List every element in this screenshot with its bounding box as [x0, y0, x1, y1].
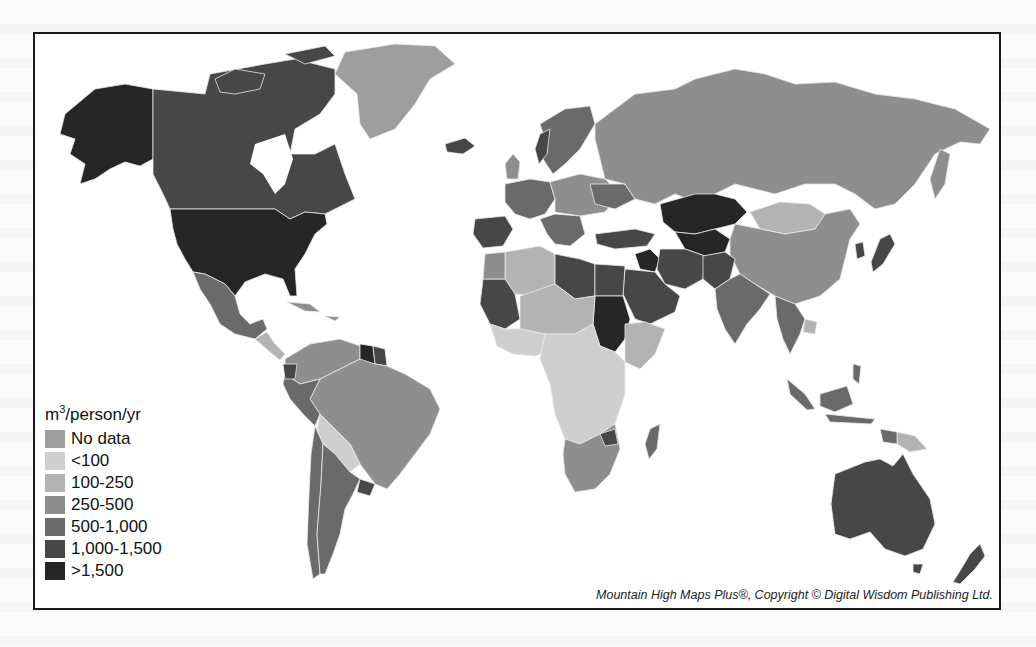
legend-item-100-250: 100-250	[45, 472, 235, 494]
legend-label: <100	[71, 451, 109, 471]
legend-label: 1,000-1,500	[71, 539, 162, 559]
region-japan	[871, 234, 895, 272]
region-iceland	[445, 138, 475, 154]
region-west-papua	[880, 429, 897, 444]
region-tasmania	[913, 564, 923, 574]
region-new-zealand	[953, 544, 985, 584]
map-legend: m3/person/yr No data <100 100-250 250-50…	[45, 398, 235, 582]
region-alaska	[60, 84, 153, 184]
region-southeast-asia	[775, 296, 805, 354]
region-australia	[831, 454, 935, 556]
legend-item-lt-100: <100	[45, 450, 235, 472]
region-papua-new-guinea	[897, 432, 927, 452]
region-western-europe	[505, 179, 555, 219]
region-thailand	[803, 319, 817, 334]
region-caribbean	[287, 302, 340, 321]
region-uk	[505, 154, 520, 179]
legend-label: No data	[71, 429, 131, 449]
legend-label: 250-500	[71, 495, 133, 515]
region-morocco	[483, 252, 505, 279]
region-philippines	[853, 364, 861, 384]
region-egypt	[595, 264, 625, 296]
legend-swatch	[45, 562, 65, 580]
legend-label: >1,500	[71, 561, 123, 581]
legend-title: m3/person/yr	[45, 398, 235, 426]
region-indonesia	[787, 379, 875, 424]
legend-item-500-1000: 500-1,000	[45, 516, 235, 538]
region-italy-balkans	[540, 214, 585, 246]
legend-item-gt-1500: >1,500	[45, 560, 235, 582]
legend-label: 100-250	[71, 473, 133, 493]
region-central-america	[255, 332, 285, 360]
legend-swatch	[45, 452, 65, 470]
region-madagascar	[645, 424, 660, 459]
legend-item-250-500: 250-500	[45, 494, 235, 516]
region-turkey	[595, 229, 655, 249]
legend-label: 500-1,000	[71, 517, 148, 537]
map-figure: m3/person/yr No data <100 100-250 250-50…	[33, 32, 1001, 610]
region-suriname	[373, 346, 387, 366]
legend-swatch	[45, 496, 65, 514]
legend-item-no-data: No data	[45, 428, 235, 450]
region-horn-of-africa	[625, 322, 665, 369]
legend-swatch	[45, 540, 65, 558]
region-russia	[595, 69, 990, 209]
region-korea	[855, 242, 865, 259]
legend-swatch	[45, 518, 65, 536]
region-iraq	[635, 249, 660, 272]
copyright-credit: Mountain High Maps Plus®, Copyright © Di…	[596, 588, 993, 602]
legend-item-1000-1500: 1,000-1,500	[45, 538, 235, 560]
region-usa	[170, 209, 327, 296]
region-spain	[473, 216, 513, 248]
legend-swatch	[45, 474, 65, 492]
region-uruguay	[357, 479, 375, 496]
region-ecuador	[283, 364, 297, 379]
legend-swatch	[45, 430, 65, 448]
region-greenland	[335, 44, 455, 139]
